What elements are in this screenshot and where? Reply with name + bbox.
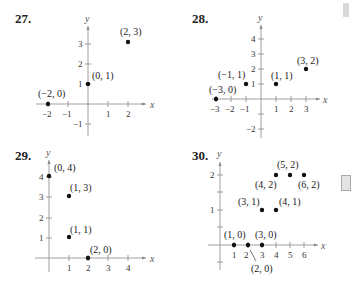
svg-text:4: 4 xyxy=(39,172,44,182)
svg-text:3: 3 xyxy=(260,250,265,260)
svg-text:1: 1 xyxy=(274,104,279,114)
svg-text:−2: −2 xyxy=(246,124,256,134)
y-axis-label: y xyxy=(84,13,90,24)
svg-text:(−3, 0): (−3, 0) xyxy=(209,84,236,96)
svg-text:(3, 2): (3, 2) xyxy=(297,55,319,67)
x-axis-label: x xyxy=(322,94,328,105)
svg-text:3: 3 xyxy=(251,49,256,59)
svg-text:(2, 3): (2, 3) xyxy=(120,26,142,38)
svg-text:(1, 0): (1, 0) xyxy=(224,229,246,241)
svg-text:1: 1 xyxy=(232,250,237,260)
svg-text:(4, 1): (4, 1) xyxy=(279,196,301,208)
svg-text:4: 4 xyxy=(274,250,279,260)
graph-28: x y −3 −2 −1 1 2 3 −2 1 2 3 4 (−3, 0) (−… xyxy=(209,12,328,138)
svg-text:2: 2 xyxy=(289,104,294,114)
svg-text:2: 2 xyxy=(39,213,44,223)
svg-text:−2: −2 xyxy=(42,109,52,119)
svg-text:2: 2 xyxy=(126,109,131,119)
svg-text:−1: −1 xyxy=(73,119,83,129)
svg-text:6: 6 xyxy=(302,250,307,260)
x-axis-label: x xyxy=(149,99,155,110)
svg-text:(6, 2): (6, 2) xyxy=(298,179,320,191)
svg-text:(−2, 0): (−2, 0) xyxy=(38,88,65,100)
svg-text:2: 2 xyxy=(251,64,256,74)
svg-text:1: 1 xyxy=(78,79,83,89)
graph-30: x y 1 2 3 4 5 6 1 2 (1, 0) (2, 0) (3, 0)… xyxy=(208,148,326,275)
svg-text:4: 4 xyxy=(251,34,256,44)
svg-text:(3, 1): (3, 1) xyxy=(238,196,260,208)
y-axis-label: y xyxy=(45,147,51,158)
svg-text:(3, 0): (3, 0) xyxy=(255,229,277,241)
svg-text:−2: −2 xyxy=(225,104,235,114)
svg-text:(2, 0): (2, 0) xyxy=(90,244,112,256)
svg-text:4: 4 xyxy=(126,263,131,273)
svg-text:2: 2 xyxy=(86,263,91,273)
svg-text:2: 2 xyxy=(210,170,215,180)
svg-text:(1, 1): (1, 1) xyxy=(271,70,293,82)
svg-text:(5, 2): (5, 2) xyxy=(277,159,299,171)
svg-text:(2, 0): (2, 0) xyxy=(251,263,273,275)
svg-text:1: 1 xyxy=(210,205,215,215)
svg-text:2: 2 xyxy=(244,250,249,260)
x-axis-label: x xyxy=(149,253,155,264)
svg-text:(1, 3): (1, 3) xyxy=(70,182,92,194)
svg-text:(0, 4): (0, 4) xyxy=(54,162,76,174)
svg-text:2: 2 xyxy=(78,59,83,69)
svg-text:(0, 1): (0, 1) xyxy=(92,70,114,82)
svg-text:−1: −1 xyxy=(62,109,72,119)
svg-text:1: 1 xyxy=(251,79,256,89)
graph-27: x y −2 −1 1 2 −1 1 2 3 (−2, 0) (0, 1) (2… xyxy=(36,13,155,136)
svg-text:(−1, 1): (−1, 1) xyxy=(218,69,245,81)
svg-text:3: 3 xyxy=(304,104,309,114)
svg-text:1: 1 xyxy=(39,233,44,243)
svg-text:3: 3 xyxy=(78,39,83,49)
svg-text:1: 1 xyxy=(67,263,72,273)
svg-text:1: 1 xyxy=(106,109,111,119)
x-axis-label: x xyxy=(320,240,326,251)
y-axis-label: y xyxy=(216,148,222,159)
svg-text:3: 3 xyxy=(39,192,44,202)
graph-29: x y 1 2 3 4 1 2 3 4 (0, 4) (1, 3) (1, 1)… xyxy=(35,147,155,273)
y-axis-label: y xyxy=(257,12,263,23)
svg-text:(4, 2): (4, 2) xyxy=(255,179,277,191)
svg-text:3: 3 xyxy=(106,263,111,273)
svg-text:−1: −1 xyxy=(240,104,250,114)
svg-text:(1, 1): (1, 1) xyxy=(70,224,92,236)
svg-text:5: 5 xyxy=(288,250,293,260)
svg-text:−3: −3 xyxy=(210,104,220,114)
